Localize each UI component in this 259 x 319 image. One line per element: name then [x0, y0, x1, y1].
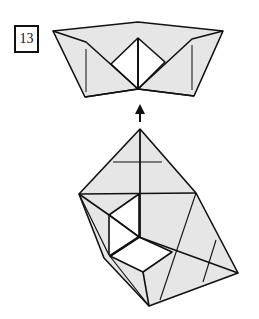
result-shape [53, 22, 223, 97]
origami-diagram [0, 0, 259, 319]
arrow-icon [135, 104, 145, 122]
current-shape [79, 129, 238, 306]
